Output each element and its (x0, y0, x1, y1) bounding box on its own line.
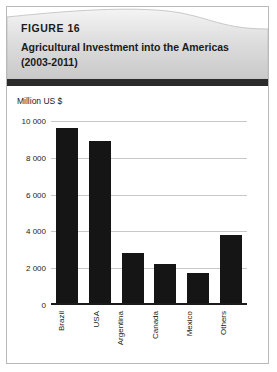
header-divider-rule (7, 79, 268, 86)
bar-brazil[interactable] (56, 128, 78, 305)
x-axis-label-brazil: Brazil (57, 311, 66, 331)
y-axis-tick-label: 10 000 (22, 117, 46, 126)
y-axis-tick-label: 8 000 (26, 153, 46, 162)
bar-slot (51, 121, 84, 305)
figure-title: Agricultural Investment into the America… (21, 40, 259, 69)
bar-slot (84, 121, 117, 305)
figure-card: FIGURE 16 Agricultural Investment into t… (6, 6, 269, 364)
bar-mexico[interactable] (187, 273, 209, 305)
x-axis-line (51, 303, 247, 305)
category-slot: Brazil (51, 308, 84, 370)
bar-slot (182, 121, 215, 305)
bar-others[interactable] (220, 235, 242, 305)
x-axis-category-labels: BrazilUSAArgentinaCanadaMexicoOthers (51, 308, 247, 370)
bar-slot (149, 121, 182, 305)
plot-area: 10 0008 0006 0004 0002 0000 (51, 121, 247, 305)
figure-number: FIGURE 16 (21, 21, 259, 35)
bar-series (51, 121, 247, 305)
category-slot: USA (84, 308, 117, 370)
gridline: 0 (51, 305, 247, 306)
y-axis-tick-label: 4 000 (26, 227, 46, 236)
x-axis-label-mexico: Mexico (185, 311, 194, 336)
x-axis-label-argentina: Argentina (116, 311, 125, 345)
bar-slot (214, 121, 247, 305)
y-axis-tick-label: 6 000 (26, 190, 46, 199)
figure-header-text: FIGURE 16 Agricultural Investment into t… (21, 21, 259, 69)
y-axis-tick-label: 2 000 (26, 264, 46, 273)
category-slot: Argentina (116, 308, 149, 370)
y-axis-title: Million US $ (17, 96, 62, 106)
bar-argentina[interactable] (122, 253, 144, 305)
x-axis-label-canada: Canada (151, 311, 160, 339)
category-slot: Canada (149, 308, 182, 370)
bar-usa[interactable] (89, 141, 111, 305)
category-slot: Mexico (182, 308, 215, 370)
bar-canada[interactable] (154, 264, 176, 305)
bar-slot (116, 121, 149, 305)
chart-panel: Million US $ 10 0008 0006 0004 0002 0000… (7, 86, 268, 363)
x-axis-label-others: Others (219, 311, 228, 335)
x-axis-label-usa: USA (92, 311, 101, 327)
y-axis-tick-label: 0 (42, 301, 46, 310)
category-slot: Others (214, 308, 247, 370)
figure-header: FIGURE 16 Agricultural Investment into t… (7, 7, 268, 79)
